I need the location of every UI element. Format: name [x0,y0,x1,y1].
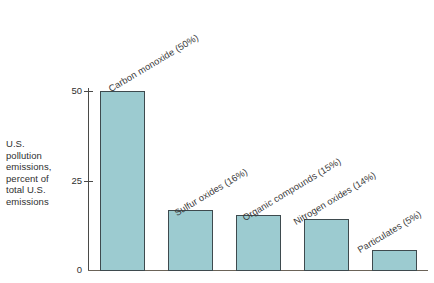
y-tick-label-50: 50 [71,86,82,96]
bar-carbon-monoxide[interactable] [100,91,145,271]
bar-organic-compounds[interactable] [236,215,281,271]
y-axis-caption-line: emissions, [6,161,78,173]
y-axis-caption-line: emissions [6,196,78,208]
y-axis-caption-line: total U.S. [6,184,78,196]
y-tick-label-0: 0 [77,265,82,275]
bar-label-carbon-monoxide: Carbon monoxide (50%) [107,32,200,94]
y-axis-caption: U.S. pollution emissions, percent of tot… [6,138,78,208]
bar-chart: U.S. pollution emissions, percent of tot… [0,0,434,283]
y-tick-label-25: 25 [71,176,82,186]
y-axis-caption-line: percent of [6,173,78,185]
y-axis-caption-line: pollution [6,150,78,162]
bar-sulfur-oxides[interactable] [168,210,213,271]
bar-nitrogen-oxides[interactable] [304,219,349,271]
bar-particulates[interactable] [372,250,417,271]
y-axis-caption-line: U.S. [6,138,78,150]
